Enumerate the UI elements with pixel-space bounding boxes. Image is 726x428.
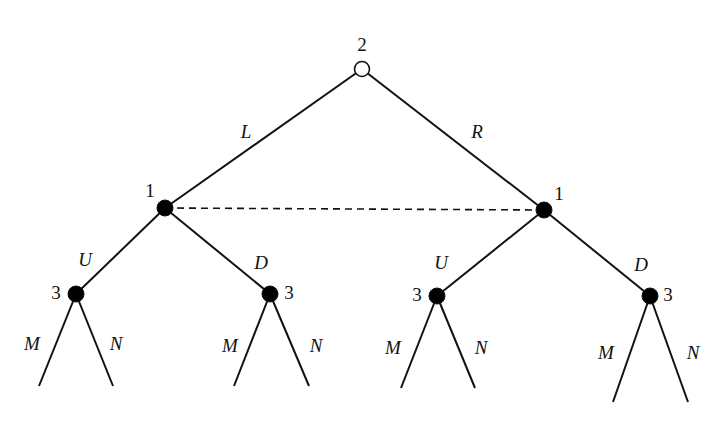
action-label-n: N [687,343,700,362]
game-tree-diagram: LRUDUDMNMNMNMN2113333 [0,0,726,428]
root-node [355,62,370,77]
player-label: 3 [663,285,673,304]
player-label: 3 [51,283,61,302]
action-label-n: N [110,334,123,353]
leaf-branch-m-line [234,294,270,386]
leaf-branch-n-line [650,296,688,402]
leaf-branch-m-line [613,296,650,402]
player-label: 2 [357,35,367,54]
action-label-d: D [254,253,268,272]
action-label-n: N [475,338,488,357]
action-label-m: M [222,336,238,355]
information-set-dashed-line [165,208,544,210]
player-label: 3 [412,285,422,304]
decision-node [157,200,173,216]
player-label: 3 [284,283,294,302]
leaf-branch-n-line [437,296,475,388]
action-label-u: U [434,253,448,272]
action-label-m: M [598,343,614,362]
decision-node [642,288,658,304]
decision-node [536,202,552,218]
leaf-branch-m-line [39,294,76,386]
action-label-d: D [634,255,648,274]
edge-u-line [437,210,544,296]
edge-l-line [165,69,362,208]
action-label-n: N [310,336,323,355]
player-label: 1 [145,181,155,200]
decision-node [429,288,445,304]
leaf-branch-n-line [270,294,309,386]
decision-node [262,286,278,302]
action-label-u: U [78,250,92,269]
action-label-l: L [241,122,252,141]
player-label: 1 [554,184,564,203]
edge-r-line [362,69,544,210]
game-tree-lines [0,0,726,428]
leaf-branch-m-line [401,296,437,388]
action-label-r: R [471,122,483,141]
decision-node [68,286,84,302]
leaf-branch-n-line [76,294,113,386]
action-label-m: M [24,334,40,353]
action-label-m: M [385,338,401,357]
